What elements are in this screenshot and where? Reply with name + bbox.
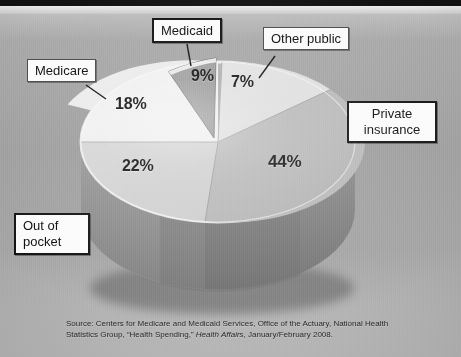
pie-top-gloss <box>81 62 355 222</box>
callout-medicaid-label: Medicaid <box>161 23 213 38</box>
callout-out-of-pocket-line2: pocket <box>23 234 61 249</box>
source-line-2-suffix: , January/February 2008. <box>244 330 333 339</box>
source-line-2-prefix: Statistics Group, “Health Spending,” <box>66 330 196 339</box>
data-label-out-of-pocket: 22% <box>122 157 153 175</box>
callout-private-insurance-line1: Private <box>372 106 412 121</box>
callout-medicare-label: Medicare <box>35 63 88 78</box>
source-line-1: Source: Centers for Medicare and Medicai… <box>66 319 388 328</box>
callout-private-insurance[interactable]: Private insurance <box>347 101 437 143</box>
callout-other-public-label: Other public <box>271 31 341 46</box>
data-label-private-insurance: 44% <box>268 152 301 172</box>
slide-canvas: 18% 9% 7% 44% 22% Medicaid Other public … <box>0 0 461 357</box>
pie-chart-svg <box>0 0 461 357</box>
data-label-medicare: 18% <box>115 95 146 113</box>
callout-out-of-pocket-line1: Out of <box>23 218 58 233</box>
data-label-other-public: 7% <box>231 73 254 91</box>
source-publication-title: Health Affairs <box>196 330 244 339</box>
callout-out-of-pocket[interactable]: Out of pocket <box>14 213 90 255</box>
callout-medicaid[interactable]: Medicaid <box>152 18 222 43</box>
callout-medicare[interactable]: Medicare <box>27 59 96 82</box>
callout-private-insurance-line2: insurance <box>364 122 420 137</box>
data-label-medicaid: 9% <box>191 67 214 85</box>
callout-other-public[interactable]: Other public <box>263 27 349 50</box>
pie-chart: 18% 9% 7% 44% 22% <box>0 0 461 357</box>
source-citation: Source: Centers for Medicare and Medicai… <box>66 318 406 340</box>
